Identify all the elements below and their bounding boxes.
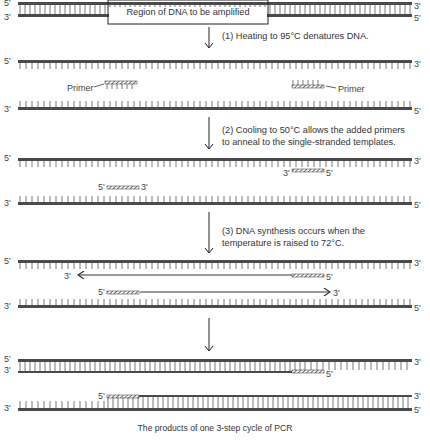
step-1: (1) Heating to 95°C denatures DNA. (205, 27, 369, 48)
label-5prime: 5' (326, 272, 333, 282)
annealed-primer-right (292, 169, 324, 172)
label-3prime: 3' (414, 1, 421, 11)
pcr-diagram: 5' 3' Region of DNA to be amplified 3' 5… (0, 0, 430, 442)
primer-left (105, 81, 137, 84)
label-5prime: 5' (414, 405, 421, 415)
primer-label-left: Primer (67, 83, 94, 93)
label-3prime: 3' (4, 104, 11, 114)
label-5prime: 5' (414, 106, 421, 116)
label-3prime: 3' (4, 403, 11, 413)
label-3prime: 3' (333, 288, 340, 298)
original-dna: 5' 3' Region of DNA to be amplified 3' 5… (4, 0, 421, 24)
caption: The products of one 3-step cycle of PCR (138, 423, 293, 433)
label-3prime: 3' (4, 12, 11, 22)
label-5prime: 5' (414, 13, 421, 23)
label-3prime: 3' (414, 258, 421, 268)
step-3-text-line1: (3) DNA synthesis occurs when the (222, 226, 365, 236)
primer-label-right: Primer (338, 84, 365, 94)
label-3prime: 3' (4, 365, 11, 375)
label-5prime: 5' (326, 168, 333, 178)
label-3prime: 3' (141, 182, 148, 192)
product-2: 5' 3' 3' 5' (4, 391, 421, 415)
label-3prime: 3' (4, 301, 11, 311)
label-5prime: 5' (4, 256, 11, 266)
step-3-text-line2: temperature is raised to 72°C. (222, 238, 344, 248)
label-3prime: 3' (283, 168, 290, 178)
label-5prime: 5' (98, 391, 105, 401)
label-5prime: 5' (98, 182, 105, 192)
region-label: Region of DNA to be amplified (126, 7, 249, 17)
label-3prime: 3' (64, 271, 71, 281)
label-3prime: 3' (414, 391, 421, 401)
label-5prime: 5' (414, 303, 421, 313)
step-2-text-line2: to anneal to the single-stranded templat… (222, 137, 396, 147)
label-3prime: 3' (414, 357, 421, 367)
annealed-strands: 5' 3' 3' 5' 5' 3' 3' 5' (4, 153, 421, 210)
step-2-text-line1: (2) Cooling to 50°C allows the added pri… (222, 125, 405, 135)
step-3: (3) DNA synthesis occurs when the temper… (205, 212, 365, 253)
step-1-text: (1) Heating to 95°C denatures DNA. (222, 31, 369, 41)
primer-right (292, 85, 324, 88)
denatured-strands: 5' 3' Primer Primer 3' 5' (4, 56, 421, 116)
label-5prime: 5' (4, 153, 11, 163)
label-5prime: 5' (326, 369, 333, 379)
product-1: 5' 3' 5' 3' (4, 354, 421, 379)
label-3prime: 3' (414, 156, 421, 166)
label-5prime: 5' (98, 287, 105, 297)
label-5prime: 5' (4, 56, 11, 66)
label-5prime: 5' (4, 0, 11, 8)
annealed-primer-left (107, 186, 139, 189)
synthesis-strands: 5' 3' 3' 5' 5' 3' 3' 5' (4, 256, 421, 313)
step-2: (2) Cooling to 50°C allows the added pri… (205, 117, 405, 149)
step-4-arrow (205, 318, 213, 351)
label-3prime: 3' (414, 59, 421, 69)
label-5prime: 5' (414, 200, 421, 210)
label-5prime: 5' (4, 354, 11, 364)
label-3prime: 3' (4, 198, 11, 208)
